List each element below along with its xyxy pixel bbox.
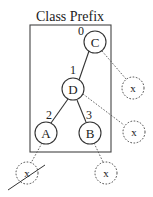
ghost-node-B-child: x	[95, 162, 117, 184]
diagram-title: Class Prefix	[36, 9, 104, 24]
node-label: A	[41, 126, 51, 141]
svg-text:x: x	[131, 126, 137, 138]
node-index: 0	[78, 24, 84, 38]
node-index: 3	[86, 108, 92, 122]
dashed-edge-A-x	[31, 143, 42, 163]
node-index: 2	[46, 108, 52, 122]
edge-D-A	[51, 99, 68, 123]
node-D: D 1	[62, 63, 84, 100]
node-label: B	[86, 126, 95, 141]
node-label: D	[68, 82, 77, 97]
node-index: 1	[70, 63, 76, 77]
node-C: C 0	[78, 24, 106, 53]
node-A: A 2	[35, 108, 57, 144]
svg-text:x: x	[130, 82, 136, 94]
ghost-node-C-child: x	[122, 77, 144, 99]
svg-text:x: x	[103, 167, 109, 179]
node-label: C	[91, 35, 100, 50]
ghost-node-D-child: x	[123, 121, 145, 143]
class-prefix-diagram: Class Prefix C 0 D 1 A 2 B 3 x x x	[0, 0, 153, 197]
dashed-edge-C-x	[102, 51, 126, 79]
edge-C-D	[79, 51, 89, 80]
edge-D-B	[77, 100, 86, 122]
ghost-node-A-child-crossed: x	[8, 162, 45, 190]
